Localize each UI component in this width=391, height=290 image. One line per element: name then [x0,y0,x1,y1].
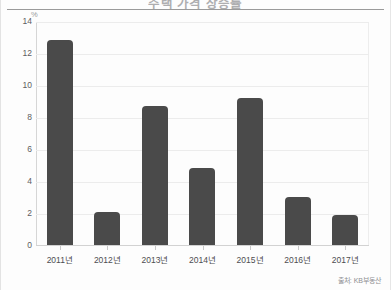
chart-figure: 주택 가격 상승률 % 02468101214 2011년2012년2013년2… [0,0,391,290]
bar-2012년[interactable] [94,212,120,245]
y-axis-unit-label: % [31,10,38,19]
source-note: 출처: KB부동산 [338,275,381,285]
x-axis-tick-2015년: 2015년 [237,253,264,265]
bar-slot [179,22,227,245]
x-axis-tick-2013년: 2013년 [141,253,168,265]
x-axis-tick-2012년: 2012년 [94,253,121,265]
bar-2013년[interactable] [142,106,168,245]
y-axis-tick-8: 8 [2,113,32,122]
y-axis-tick-10: 10 [2,81,32,90]
bar-2011년[interactable] [47,40,73,245]
x-tick-mark [155,246,156,250]
x-tick-mark [203,246,204,250]
y-axis-tick-4: 4 [2,177,32,186]
x-tick-mark [60,246,61,250]
bar-slot [36,22,84,245]
chart-title-clip: 주택 가격 상승률 [0,0,391,9]
x-axis: 2011년2012년2013년2014년2015년2016년2017년 [36,246,369,268]
bar-slot [274,22,322,245]
x-tick-mark [298,246,299,250]
bar-2015년[interactable] [237,98,263,245]
y-axis-tick-6: 6 [2,145,32,154]
bar-series [36,22,369,245]
chart-title: 주택 가격 상승률 [0,0,391,9]
x-tick-mark [345,246,346,250]
bar-slot [226,22,274,245]
x-axis-tick-2014년: 2014년 [189,253,216,265]
plot-area [36,22,369,246]
y-axis-tick-2: 2 [2,209,32,218]
bar-2016년[interactable] [285,197,311,245]
bar-2017년[interactable] [332,215,358,245]
x-axis-tick-2016년: 2016년 [284,253,311,265]
y-axis-tick-labels: 02468101214 [0,22,32,246]
y-axis-tick-0: 0 [2,241,32,250]
x-tick-mark [107,246,108,250]
x-axis-tick-2017년: 2017년 [332,253,359,265]
y-axis-tick-14: 14 [2,17,32,26]
x-axis-tick-2011년: 2011년 [47,253,73,265]
title-divider [7,9,384,10]
bar-slot [84,22,132,245]
x-tick-mark [250,246,251,250]
bar-slot [131,22,179,245]
y-axis-tick-12: 12 [2,49,32,58]
bar-2014년[interactable] [189,168,215,245]
bar-slot [321,22,369,245]
